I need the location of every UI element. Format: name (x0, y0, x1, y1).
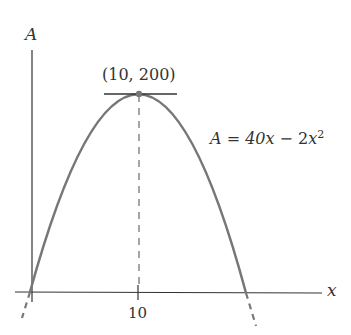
x-tick-label-10: 10 (128, 304, 147, 322)
curve-extension-right (246, 293, 256, 326)
eq-lhs: A = 40 (210, 129, 266, 148)
eq-mid: − 2 (275, 129, 309, 148)
equation-label: A = 40x − 2x2 (210, 128, 324, 148)
x-axis (15, 292, 322, 293)
x-axis-label: x (327, 280, 337, 300)
curve-extension-left (22, 292, 30, 318)
parabola-diagram (0, 0, 351, 335)
eq-x1: x (266, 129, 275, 148)
vertex-point (136, 91, 142, 97)
eq-x2: x (308, 129, 317, 148)
y-axis-label: A (25, 24, 37, 44)
eq-exp: 2 (317, 128, 324, 141)
parabola-curve (30, 94, 246, 293)
vertex-label: (10, 200) (102, 65, 176, 84)
